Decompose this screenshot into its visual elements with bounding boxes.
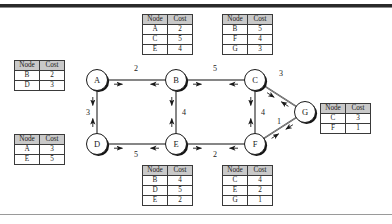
node-f: F — [245, 134, 268, 157]
edge-weight-b-e: 4 — [182, 108, 186, 117]
cost-table-a: NodeCostB2D3 — [14, 60, 65, 91]
cost-cell: 5 — [248, 25, 273, 35]
column-header-node: Node — [143, 15, 168, 25]
cost-cell: 4 — [168, 45, 193, 55]
edge-weight-b-c: 5 — [213, 64, 217, 73]
node-cell: A — [15, 145, 40, 155]
node-cell: F — [321, 124, 346, 134]
node-label-e: E — [173, 139, 178, 149]
cost-table-f: NodeCostC4E2G1 — [222, 165, 273, 206]
table-row: E2 — [223, 186, 273, 196]
cost-table-e: NodeCostB4D5E2 — [142, 165, 193, 206]
column-header-node: Node — [143, 166, 168, 176]
node-a: A — [87, 70, 110, 93]
edge-weight-d-e: 5 — [134, 150, 138, 159]
table-row: E2 — [143, 196, 193, 206]
cost-cell: 2 — [168, 196, 193, 206]
table-row: B5 — [223, 25, 273, 35]
table-header-row: NodeCost — [15, 61, 65, 71]
table-header-row: NodeCost — [143, 15, 193, 25]
node-c: C — [245, 70, 268, 93]
table-row: G3 — [223, 45, 273, 55]
table-row: A2 — [143, 25, 193, 35]
node-cell: F — [223, 35, 248, 45]
node-g: G — [295, 102, 318, 125]
node-cell: C — [223, 176, 248, 186]
table-row: F1 — [321, 124, 371, 134]
table-row: B4 — [143, 176, 193, 186]
figure-canvas: ABCDEFG 253445231 NodeCostB2D3NodeCostA3… — [0, 0, 392, 224]
node-d: D — [87, 134, 110, 157]
table-row: G1 — [223, 196, 273, 206]
cost-table-g: NodeCostC3F1 — [320, 103, 371, 134]
node-cell: C — [143, 35, 168, 45]
table-header-row: NodeCost — [143, 166, 193, 176]
edge-weight-c-f: 4 — [261, 108, 265, 117]
column-header-cost: Cost — [168, 166, 193, 176]
node-cell: E — [143, 196, 168, 206]
cost-cell: 5 — [40, 155, 65, 165]
cost-table-d: NodeCostA3E5 — [14, 134, 65, 165]
table-row: D3 — [15, 81, 65, 91]
node-cell: B — [223, 25, 248, 35]
column-header-cost: Cost — [248, 15, 273, 25]
cost-cell: 4 — [248, 176, 273, 186]
cost-cell: 3 — [40, 145, 65, 155]
edge-weight-f-g: 1 — [277, 117, 281, 126]
cost-cell: 2 — [40, 71, 65, 81]
cost-cell: 3 — [346, 114, 371, 124]
edge-weight-a-d: 3 — [86, 108, 90, 117]
table-row: E5 — [15, 155, 65, 165]
table-row: C5 — [143, 35, 193, 45]
table-row: B2 — [15, 71, 65, 81]
node-cell: E — [143, 45, 168, 55]
cost-cell: 5 — [168, 186, 193, 196]
node-label-g: G — [302, 107, 308, 117]
table-row: A3 — [15, 145, 65, 155]
column-header-node: Node — [15, 61, 40, 71]
column-header-cost: Cost — [40, 135, 65, 145]
cost-cell: 5 — [168, 35, 193, 45]
node-cell: G — [223, 45, 248, 55]
cost-cell: 3 — [248, 45, 273, 55]
column-header-cost: Cost — [168, 15, 193, 25]
column-header-cost: Cost — [248, 166, 273, 176]
node-label-b: B — [173, 75, 179, 85]
column-header-node: Node — [321, 104, 346, 114]
cost-cell: 2 — [168, 25, 193, 35]
column-header-cost: Cost — [40, 61, 65, 71]
edge-weight-c-g: 3 — [279, 69, 283, 78]
node-label-c: C — [252, 75, 258, 85]
node-label-a: A — [94, 75, 101, 85]
arrow-c-to-g — [267, 93, 274, 98]
cost-cell: 1 — [248, 196, 273, 206]
edge-layer — [97, 80, 296, 144]
cost-table-c: NodeCostB5F4G3 — [222, 14, 273, 55]
node-layer: ABCDEFG — [87, 70, 318, 157]
table-header-row: NodeCost — [223, 166, 273, 176]
table-row: C3 — [321, 114, 371, 124]
arrow-g-to-f — [286, 125, 293, 130]
column-header-node: Node — [223, 166, 248, 176]
column-header-node: Node — [15, 135, 40, 145]
node-label-d: D — [94, 139, 100, 149]
arrow-f-to-g — [272, 134, 279, 139]
cost-cell: 4 — [248, 35, 273, 45]
node-e: E — [166, 134, 189, 157]
node-label-f: F — [253, 139, 258, 149]
table-row: C4 — [223, 176, 273, 186]
node-cell: B — [15, 71, 40, 81]
node-cell: D — [143, 186, 168, 196]
table-header-row: NodeCost — [15, 135, 65, 145]
column-header-cost: Cost — [346, 104, 371, 114]
cost-table-b: NodeCostA2C5E4 — [142, 14, 193, 55]
node-cell: B — [143, 176, 168, 186]
node-cell: C — [321, 114, 346, 124]
table-header-row: NodeCost — [223, 15, 273, 25]
table-header-row: NodeCost — [321, 104, 371, 114]
edge-c-g — [264, 86, 296, 107]
node-cell: D — [15, 81, 40, 91]
node-cell: A — [143, 25, 168, 35]
arrow-g-to-c — [281, 102, 288, 107]
edge-weight-a-b: 2 — [134, 64, 138, 73]
